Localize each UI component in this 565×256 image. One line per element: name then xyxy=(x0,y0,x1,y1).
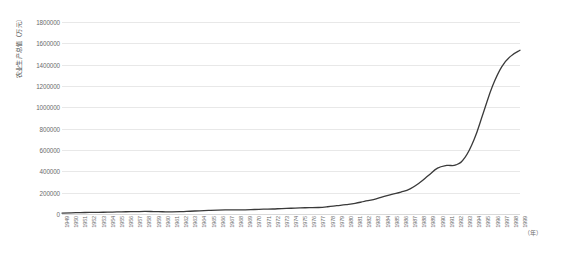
x-tick-label: 1967 xyxy=(229,216,235,228)
y-tick-label: 1600000 xyxy=(4,40,60,47)
x-tick-label: 1994 xyxy=(476,216,482,228)
x-tick-label: 1985 xyxy=(394,216,400,228)
x-tick-label: 1981 xyxy=(357,216,363,228)
x-tick-label: 1950 xyxy=(73,216,79,228)
x-tick-label: 1951 xyxy=(82,216,88,228)
plot-area xyxy=(62,22,520,214)
x-tick-label: 1968 xyxy=(238,216,244,228)
x-tick-label: 1978 xyxy=(330,216,336,228)
x-tick-label: 1984 xyxy=(385,216,391,228)
x-tick-label: 1965 xyxy=(211,216,217,228)
x-tick-label: 1963 xyxy=(192,216,198,228)
y-tick-label: 1800000 xyxy=(4,19,60,26)
x-tick-label: 1980 xyxy=(348,216,354,228)
x-tick-label: 1979 xyxy=(339,216,345,228)
x-tick-label: 1955 xyxy=(119,216,125,228)
x-tick-label: 1991 xyxy=(449,216,455,228)
y-tick-label: 1200000 xyxy=(4,83,60,90)
x-tick-label: 1957 xyxy=(137,216,143,228)
x-tick-label: 1976 xyxy=(311,216,317,228)
x-tick-label: 1974 xyxy=(293,216,299,228)
x-tick-label: 1971 xyxy=(266,216,272,228)
y-tick-label: 600000 xyxy=(4,147,60,154)
x-tick-label: 1993 xyxy=(467,216,473,228)
y-tick-label: 800000 xyxy=(4,125,60,132)
x-tick-label: 1958 xyxy=(146,216,152,228)
x-tick-label: 1973 xyxy=(284,216,290,228)
y-tick-label: 200000 xyxy=(4,189,60,196)
x-tick-label: 1952 xyxy=(91,216,97,228)
x-tick-label: 1977 xyxy=(320,216,326,228)
x-tick-label: 1962 xyxy=(183,216,189,228)
y-tick-label: 400000 xyxy=(4,168,60,175)
x-tick-label: 1949 xyxy=(64,216,70,228)
x-tick-label: 1992 xyxy=(458,216,464,228)
x-tick-label: 1961 xyxy=(174,216,180,228)
x-tick-label: 1983 xyxy=(375,216,381,228)
x-tick-label: 1969 xyxy=(247,216,253,228)
x-tick-label: 1956 xyxy=(128,216,134,228)
x-axis-tick-labels: 1949195019511952195319541955195619571958… xyxy=(62,216,520,256)
x-tick-label: 1959 xyxy=(156,216,162,228)
x-tick-label: 1972 xyxy=(275,216,281,228)
x-tick-label: 1988 xyxy=(421,216,427,228)
x-tick-label: 1995 xyxy=(485,216,491,228)
line-series xyxy=(62,22,520,214)
x-tick-label: 1970 xyxy=(256,216,262,228)
y-tick-label: 0 xyxy=(4,211,60,218)
y-axis-tick-labels: 1800000160000014000001200000100000080000… xyxy=(0,0,60,256)
x-tick-label: 1954 xyxy=(110,216,116,228)
x-tick-label: 1966 xyxy=(220,216,226,228)
x-tick-label: 1986 xyxy=(403,216,409,228)
series-path-agricultural-output xyxy=(62,50,520,213)
y-tick-label: 1000000 xyxy=(4,104,60,111)
x-tick-label: 1996 xyxy=(495,216,501,228)
x-tick-label: 1999 xyxy=(522,216,528,228)
x-tick-label: 1997 xyxy=(504,216,510,228)
y-tick-label: 1400000 xyxy=(4,61,60,68)
x-tick-label: 1953 xyxy=(101,216,107,228)
x-tick-label: 1964 xyxy=(201,216,207,228)
x-tick-label: 1990 xyxy=(440,216,446,228)
x-tick-label: 1960 xyxy=(165,216,171,228)
x-tick-label: 1989 xyxy=(430,216,436,228)
x-axis-unit-label: （年） xyxy=(524,228,542,237)
x-tick-label: 1987 xyxy=(412,216,418,228)
x-tick-label: 1982 xyxy=(366,216,372,228)
x-tick-label: 1975 xyxy=(302,216,308,228)
chart-container: 农业生产总值（万元） 18000001600000140000012000001… xyxy=(0,0,565,256)
x-tick-label: 1998 xyxy=(513,216,519,228)
